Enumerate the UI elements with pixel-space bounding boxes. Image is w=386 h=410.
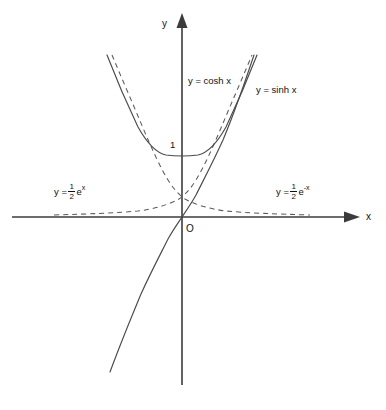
half-exp-neg-denominator: 2 [290, 193, 296, 201]
half-exp-neg-exponent: -x [304, 184, 310, 191]
half-exp-neg-prefix: y = [276, 187, 289, 197]
curve-label-half-exp-pos-x: y =12ex [54, 183, 85, 201]
y-axis-label: y [162, 19, 167, 29]
x-axis-label: x [366, 212, 371, 222]
y-axis-arrowhead [177, 13, 188, 28]
half-exp-pos-exponent: x [82, 184, 86, 191]
curve-label-cosh: y = cosh x [188, 76, 231, 86]
x-axis-arrowhead [344, 212, 360, 223]
hyperbolic-functions-figure: y x O 1 y = cosh x y = sinh x y =12ex y … [0, 0, 386, 410]
half-exp-pos-prefix: y = [54, 187, 67, 197]
half-exp-neg-fraction: 12 [290, 183, 296, 201]
plot-canvas [0, 0, 386, 410]
curve-label-sinh: y = sinh x [256, 85, 296, 95]
tick-label-one: 1 [170, 140, 175, 150]
half-exp-neg-numerator: 1 [290, 183, 296, 191]
half-exp-pos-denominator: 2 [68, 193, 74, 201]
half-exp-pos-numerator: 1 [68, 183, 74, 191]
half-exp-pos-fraction: 12 [68, 183, 74, 201]
curve-label-half-exp-neg-x: y =12e-x [276, 183, 310, 201]
origin-label: O [186, 224, 194, 234]
